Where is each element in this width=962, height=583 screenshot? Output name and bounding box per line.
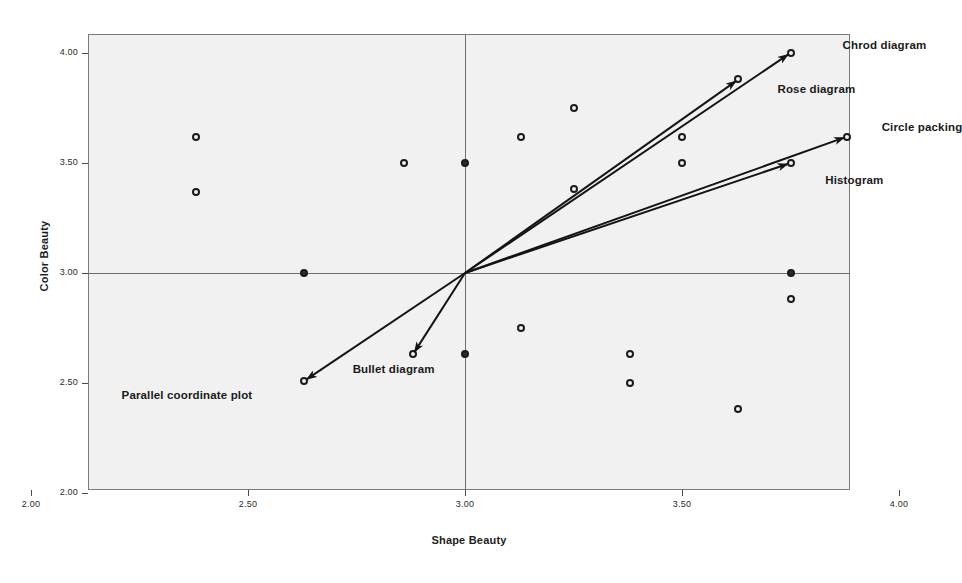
vector-label: Parallel coordinate plot [122,389,253,401]
y-axis-title: Color Beauty [38,196,50,316]
x-axis-title: Shape Beauty [409,534,529,546]
vector-arrow [465,81,736,273]
vector-label: Bullet diagram [353,363,435,375]
vector-arrow [415,273,465,352]
vector-label: Rose diagram [777,83,855,95]
vector-arrow [465,55,788,273]
vector-arrow [465,138,844,273]
vector-label: Circle packing [882,121,962,133]
vector-label: Chrod diagram [843,39,927,51]
vector-arrow [465,164,788,273]
vector-label: Histogram [825,174,883,186]
